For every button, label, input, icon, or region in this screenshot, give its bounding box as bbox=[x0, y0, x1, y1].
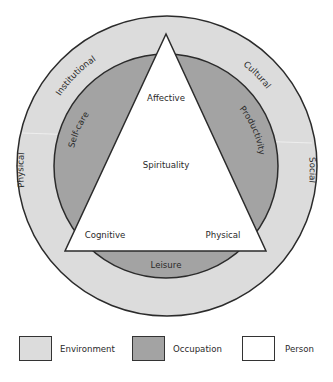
label-cognitive: Cognitive bbox=[85, 230, 126, 240]
legend: Environment Occupation Person bbox=[0, 336, 333, 360]
swatch-occupation bbox=[132, 336, 165, 361]
label-affective: Affective bbox=[147, 93, 185, 103]
legend-label: Occupation bbox=[173, 344, 222, 354]
legend-item-environment: Environment bbox=[19, 336, 115, 361]
legend-label: Environment bbox=[60, 344, 115, 354]
swatch-person bbox=[242, 336, 275, 361]
label-person-physical: Physical bbox=[206, 230, 241, 240]
swatch-environment bbox=[19, 336, 52, 361]
legend-item-occupation: Occupation bbox=[132, 336, 222, 361]
legend-item-person: Person bbox=[242, 336, 314, 361]
label-leisure: Leisure bbox=[151, 260, 182, 270]
label-social: Social bbox=[307, 157, 318, 184]
legend-label: Person bbox=[285, 344, 314, 354]
label-env-physical: Physical bbox=[15, 152, 26, 189]
label-spirituality: Spirituality bbox=[143, 160, 190, 170]
model-diagram: Institutional Cultural Physical Social S… bbox=[0, 0, 333, 382]
